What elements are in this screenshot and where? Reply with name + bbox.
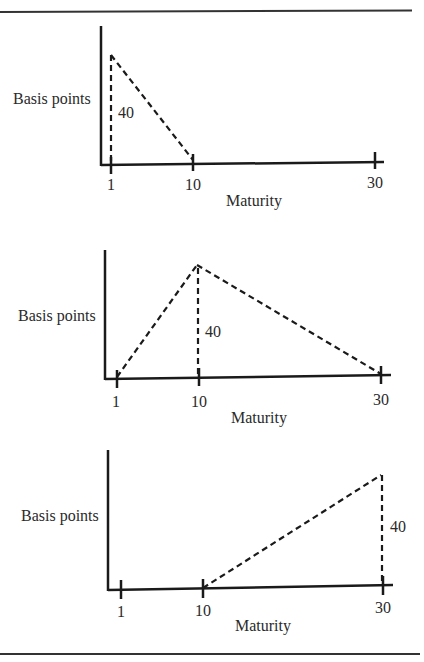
tick-label-10: 10 [195, 603, 211, 619]
x-axis [108, 585, 393, 590]
chart-3-plot [0, 0, 424, 662]
tick-label-30: 30 [375, 600, 391, 616]
value-label: 40 [390, 519, 406, 535]
x-axis-label: Maturity [235, 618, 291, 634]
tick-label-1: 1 [117, 604, 125, 620]
shift-line [203, 475, 381, 588]
y-axis-label: Basis points [21, 508, 99, 524]
